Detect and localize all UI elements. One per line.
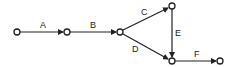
edge-label-a: A [40, 20, 46, 30]
edge-label-c: C [141, 7, 148, 17]
node-2 [64, 29, 70, 35]
edge-label-f: F [194, 49, 200, 59]
edge-label-b: B [90, 20, 96, 30]
edge-label-d: D [132, 44, 139, 54]
edge-d [123, 34, 168, 59]
activity-network-diagram: A B C D E F [0, 0, 230, 68]
node-1 [14, 29, 20, 35]
node-4 [169, 3, 175, 9]
edge-label-e: E [175, 28, 181, 38]
node-3 [117, 29, 123, 35]
node-6 [217, 58, 223, 64]
node-5 [169, 58, 175, 64]
